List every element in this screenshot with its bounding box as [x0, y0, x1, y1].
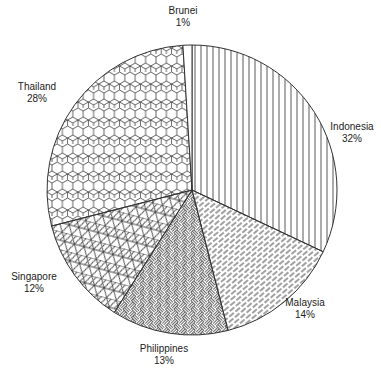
- slice-label-singapore: Singapore12%: [11, 271, 57, 294]
- slice-label-malaysia: Malaysia14%: [285, 297, 325, 320]
- slice-label-brunei: Brunei1%: [169, 5, 198, 28]
- pie-chart: Indonesia32%Malaysia14%Philippines13%Sin…: [0, 0, 381, 381]
- pie-slices: [47, 45, 337, 335]
- slice-label-philippines: Philippines13%: [140, 343, 188, 366]
- slice-label-thailand: Thailand28%: [18, 81, 56, 104]
- slice-label-indonesia: Indonesia32%: [330, 121, 374, 144]
